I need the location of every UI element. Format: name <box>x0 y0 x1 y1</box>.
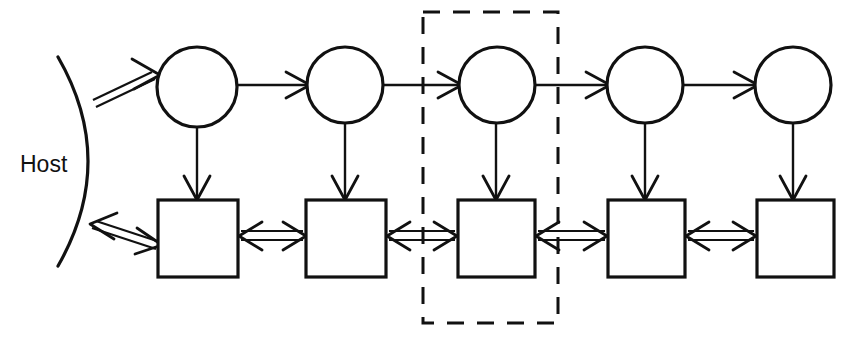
node-circle-3[interactable] <box>459 47 535 123</box>
node-box-1[interactable] <box>158 200 238 277</box>
node-box-2[interactable] <box>306 200 386 277</box>
node-circle-1[interactable] <box>157 47 237 127</box>
node-circle-4[interactable] <box>607 47 683 123</box>
edge-box-3-to-box-4 <box>536 222 607 250</box>
node-circle-5[interactable] <box>755 47 831 123</box>
node-box-3[interactable] <box>458 200 535 277</box>
edge-circle-2-to-box-2 <box>332 123 358 200</box>
node-box-5[interactable] <box>757 200 834 277</box>
edge-host-to-circle-1 <box>93 59 160 107</box>
edge-host-to-box-1 <box>90 213 162 254</box>
node-circle-2[interactable] <box>307 47 383 123</box>
edge-circle-5-to-box-5 <box>780 123 806 200</box>
edge-circle-4-to-box-4 <box>632 123 658 200</box>
host-label: Host <box>20 151 68 177</box>
edge-circle-1-to-box-1 <box>184 127 210 200</box>
host-group: Host <box>20 57 88 266</box>
edge-circle-4-to-circle-5 <box>683 72 758 98</box>
edge-circle-3-to-box-3 <box>483 123 509 200</box>
edge-box-1-to-box-2 <box>239 222 306 250</box>
diagram-canvas: Host <box>0 0 855 338</box>
edge-box-4-to-box-5 <box>686 222 756 250</box>
edge-circle-1-to-circle-2 <box>237 72 310 98</box>
diagram-svg: Host <box>0 0 855 338</box>
node-box-4[interactable] <box>608 200 685 277</box>
edge-circle-3-to-circle-4 <box>535 72 610 98</box>
